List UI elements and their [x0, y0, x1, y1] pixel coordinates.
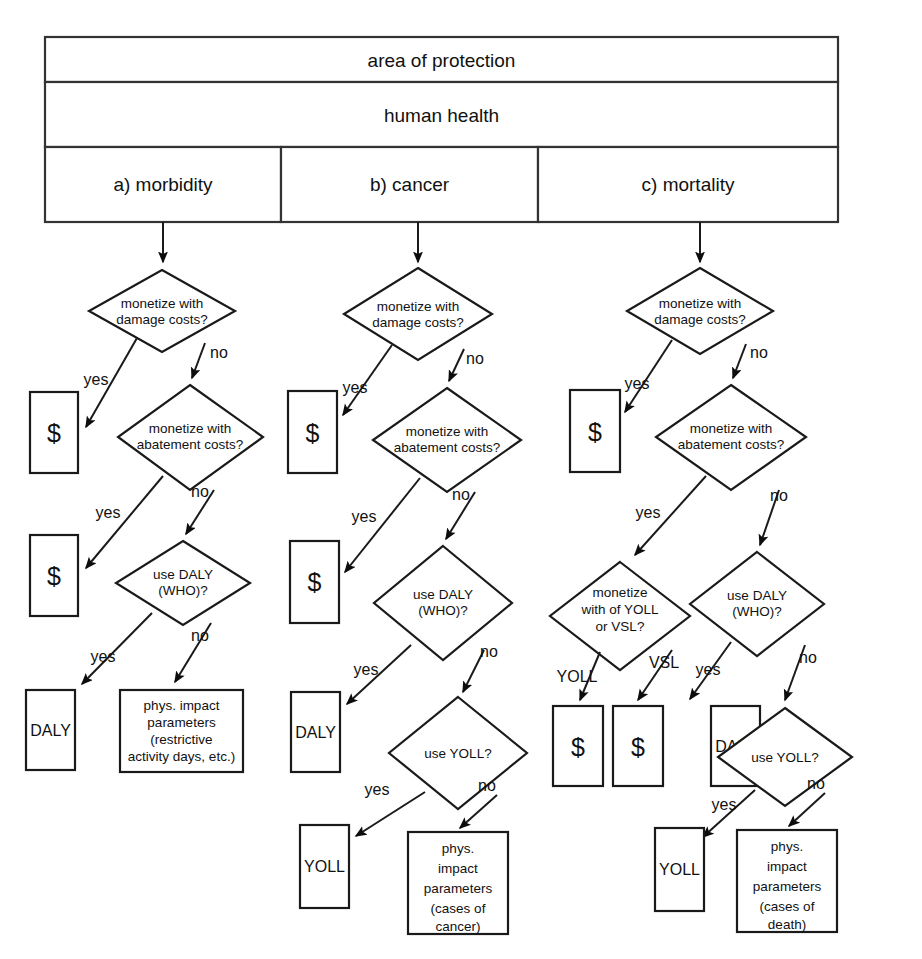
decision-damage-costs-a-line2: damage costs? [116, 312, 208, 327]
terminal-phys-impact-c-line5: death) [768, 917, 806, 932]
edge-label-yoll-yes-b: yes [365, 781, 390, 798]
area-of-protection-label: area of protection [368, 50, 516, 71]
edge-label-abatement-no-c: no [770, 487, 788, 504]
decision-damage-costs-a [89, 270, 235, 352]
terminal-phys-impact-b-line3: parameters [424, 881, 493, 896]
terminal-money-a1-label: $ [47, 419, 61, 447]
terminal-money-a2-label: $ [47, 562, 61, 590]
edge-label-yoll-no-b: no [478, 777, 496, 794]
edge-damage-no-c [733, 344, 746, 378]
edge-damage-no-a [192, 343, 205, 378]
decision-damage-costs-c [627, 268, 773, 354]
terminal-phys-impact-b-line2: impact [438, 861, 478, 876]
decision-use-daly-a-line2: (WHO)? [158, 583, 208, 598]
decision-use-daly-b-line1: use DALY [413, 587, 473, 602]
edge-label-damage-yes-b: yes [343, 379, 368, 396]
terminal-phys-impact-c-line4: (cases of [760, 899, 815, 914]
terminal-money-c-vsl-label: $ [631, 733, 645, 761]
edge-label-yoll-yes-c: yes [712, 796, 737, 813]
terminal-phys-impact-a-line4: activity days, etc.) [128, 749, 235, 764]
terminal-yoll-c-label: YOLL [659, 861, 700, 878]
branch-cancer: monetize with damage costs? yes $ no mon… [288, 222, 527, 934]
edge-label-yollvsl-vsl-c: VSL [649, 654, 679, 671]
decision-abatement-costs-b-line2: abatement costs? [394, 440, 501, 455]
human-health-label: human health [384, 105, 499, 126]
decision-abatement-costs-b-line1: monetize with [406, 424, 489, 439]
edge-label-damage-no-a: no [210, 344, 228, 361]
terminal-daly-b-label: DALY [295, 724, 336, 741]
edge-label-yollvsl-yoll-c: YOLL [557, 668, 598, 685]
terminal-phys-impact-c-line2: impact [767, 859, 807, 874]
terminal-phys-impact-c-line1: phys. [771, 839, 803, 854]
decision-use-daly-c-line2: (WHO)? [732, 604, 782, 619]
decision-damage-costs-c-line1: monetize with [659, 296, 742, 311]
decision-yoll-or-vsl-c-line3: or VSL? [596, 619, 645, 634]
decision-use-daly-c-line1: use DALY [727, 588, 787, 603]
edge-label-damage-no-b: no [466, 350, 484, 367]
edge-label-daly-yes-a: yes [91, 648, 116, 665]
edge-label-daly-no-a: no [191, 627, 209, 644]
decision-abatement-costs-c-line1: monetize with [690, 421, 773, 436]
branch-mortality: monetize with damage costs? yes $ no mon… [550, 222, 852, 932]
edge-damage-no-b [449, 349, 464, 381]
terminal-money-b2-label: $ [308, 568, 322, 596]
decision-damage-costs-a-line1: monetize with [121, 296, 204, 311]
decision-use-yoll-c-label: use YOLL? [751, 750, 818, 765]
decision-yoll-or-vsl-c-line2: with of YOLL [580, 602, 659, 617]
edge-yoll-yes-b [356, 792, 425, 836]
terminal-yoll-b-label: YOLL [304, 858, 345, 875]
terminal-phys-impact-a-line3: (restrictive [150, 732, 212, 747]
edge-label-abatement-yes-c: yes [636, 504, 661, 521]
decision-abatement-costs-c-line2: abatement costs? [678, 437, 785, 452]
edge-label-damage-no-c: no [750, 344, 768, 361]
branch-morbidity: monetize with damage costs? yes $ no mon… [26, 222, 263, 772]
edge-label-abatement-yes-b: yes [352, 508, 377, 525]
decision-damage-costs-b-line2: damage costs? [372, 315, 464, 330]
header-table: area of protection human health a) morbi… [45, 37, 838, 222]
edge-abatement-yes-a [86, 476, 163, 568]
edge-label-damage-yes-a: yes [84, 371, 109, 388]
terminal-daly-a-label: DALY [30, 722, 71, 739]
decision-use-yoll-b-label: use YOLL? [424, 746, 491, 761]
decision-abatement-costs-a-line2: abatement costs? [137, 437, 244, 452]
decision-damage-costs-c-line2: damage costs? [654, 312, 746, 327]
terminal-phys-impact-a-line1: phys. impact [144, 698, 220, 713]
terminal-phys-impact-b-line5: cancer) [435, 919, 480, 934]
edge-label-abatement-no-b: no [452, 486, 470, 503]
terminal-phys-impact-b-line4: (cases of [431, 901, 486, 916]
terminal-phys-impact-c-line3: parameters [753, 879, 822, 894]
category-label-cancer: b) cancer [370, 174, 450, 195]
terminal-phys-impact-b-line1: phys. [442, 841, 474, 856]
terminal-money-c-yoll-label: $ [571, 733, 585, 761]
terminal-phys-impact-a-line2: parameters [147, 715, 216, 730]
edge-label-abatement-no-a: no [191, 483, 209, 500]
edge-label-daly-no-c: no [799, 649, 817, 666]
edge-label-daly-yes-b: yes [354, 661, 379, 678]
category-label-mortality: c) mortality [642, 174, 735, 195]
edge-label-abatement-yes-a: yes [96, 504, 121, 521]
edge-label-daly-no-b: no [480, 643, 498, 660]
decision-use-daly-a-line1: use DALY [153, 567, 213, 582]
decision-yoll-or-vsl-c-line1: monetize [593, 585, 648, 600]
terminal-money-c1-label: $ [588, 418, 602, 446]
decision-damage-costs-b-line1: monetize with [377, 299, 460, 314]
edge-label-daly-yes-c: yes [696, 661, 721, 678]
decision-abatement-costs-a-line1: monetize with [149, 421, 232, 436]
decision-tree-flowchart: area of protection human health a) morbi… [0, 0, 922, 959]
edge-label-yoll-no-c: no [807, 775, 825, 792]
terminal-money-b1-label: $ [306, 419, 320, 447]
decision-use-daly-b-line2: (WHO)? [418, 603, 468, 618]
decision-damage-costs-b [344, 268, 492, 360]
edge-label-damage-yes-c: yes [625, 375, 650, 392]
category-label-morbidity: a) morbidity [113, 174, 213, 195]
edge-abatement-yes-b [345, 478, 420, 572]
